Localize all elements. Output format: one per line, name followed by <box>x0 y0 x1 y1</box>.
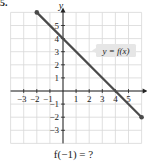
y-axis-label: y <box>58 0 64 11</box>
x-axis-arrow-icon <box>143 89 147 94</box>
y-tick-label: 5 <box>55 21 60 31</box>
x-tick-label: −2 <box>30 94 40 104</box>
y-tick-label: 2 <box>55 60 60 70</box>
x-tick-label: 4 <box>113 94 118 104</box>
function-label: y = f(x) <box>101 46 129 56</box>
x-tick-label: 3 <box>100 94 105 104</box>
y-tick-label: −1 <box>49 99 59 109</box>
question-text: f(−1) = ? <box>0 148 147 160</box>
x-tick-label: −3 <box>17 94 27 104</box>
y-tick-label: 3 <box>55 47 60 57</box>
function-graph: xy−3−2−11234554321−1−2−3y = f(x) <box>0 0 147 148</box>
y-tick-label: 1 <box>55 73 60 83</box>
x-tick-label: 1 <box>74 94 79 104</box>
endpoint-dot <box>35 10 40 15</box>
y-tick-label: −3 <box>49 125 59 135</box>
y-tick-label: −2 <box>49 112 59 122</box>
endpoint-dot <box>139 115 144 120</box>
x-tick-label: 2 <box>87 94 92 104</box>
label-pointer-icon <box>92 48 96 53</box>
